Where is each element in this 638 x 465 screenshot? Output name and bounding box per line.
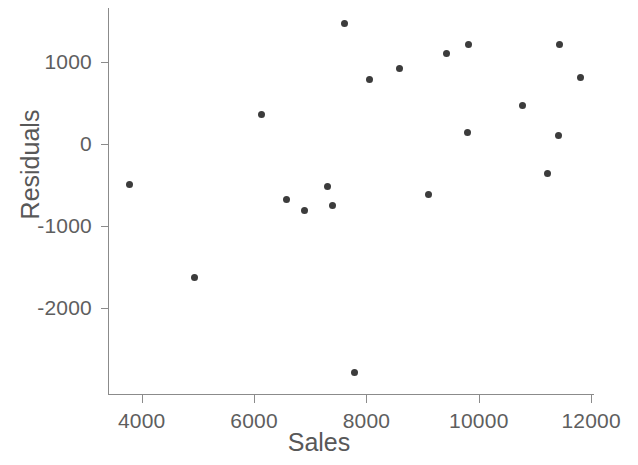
residuals-vs-sales-scatter-chart: 10000-1000-2000 4000600080001000012000 R…: [0, 0, 638, 465]
data-point: [465, 41, 472, 48]
data-point: [341, 20, 348, 27]
data-point: [544, 170, 551, 177]
x-axis-line: [108, 394, 594, 395]
y-axis-tick: [101, 62, 109, 63]
plot-area: [108, 8, 594, 395]
data-point: [329, 202, 336, 209]
data-point: [425, 191, 432, 198]
data-point: [301, 207, 308, 214]
data-point: [443, 50, 450, 57]
data-point: [191, 274, 198, 281]
y-axis-tick-label: -2000: [0, 296, 92, 320]
x-axis-tick: [366, 395, 367, 403]
y-axis-tick: [101, 308, 109, 309]
data-point: [396, 65, 403, 72]
x-axis-tick: [254, 395, 255, 403]
data-point: [283, 196, 290, 203]
y-axis-line: [108, 8, 109, 395]
y-axis-tick: [101, 226, 109, 227]
x-axis-title: Sales: [0, 428, 638, 457]
data-point: [577, 74, 584, 81]
data-point: [366, 76, 373, 83]
data-point: [324, 183, 331, 190]
x-axis-tick: [591, 395, 592, 403]
y-axis-tick-label: -1000: [0, 214, 92, 238]
data-point: [126, 181, 133, 188]
y-axis-title: Residuals: [16, 50, 45, 280]
y-axis-tick-label: 1000: [0, 50, 92, 74]
data-point: [464, 129, 471, 136]
data-point: [519, 102, 526, 109]
x-axis-tick: [479, 395, 480, 403]
y-axis-tick-label: 0: [0, 132, 92, 156]
data-point: [556, 41, 563, 48]
data-point: [555, 132, 562, 139]
data-point: [258, 111, 265, 118]
data-point: [351, 369, 358, 376]
x-axis-tick: [142, 395, 143, 403]
y-axis-tick: [101, 144, 109, 145]
